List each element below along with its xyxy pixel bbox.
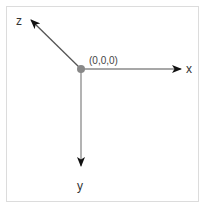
origin-dot [77,65,85,73]
axes-diagram [0,0,208,211]
origin-label: (0,0,0) [89,55,118,67]
x-axis-label: x [186,63,192,75]
z-axis-line [31,20,81,69]
z-axis-label: z [16,15,22,27]
y-axis-label: y [77,180,83,192]
